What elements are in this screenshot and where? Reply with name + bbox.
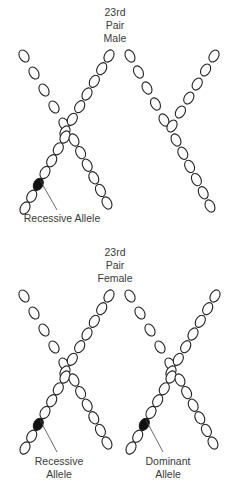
arm-bead [199,423,213,439]
arm-bead [133,305,147,321]
arm-bead [93,183,107,199]
female-x-chromosome-2 [123,288,222,456]
female-dominant-pointer [146,420,163,452]
arm-bead [207,48,221,64]
arm-bead [193,313,207,329]
arm-bead [17,48,31,64]
arm-bead [47,339,61,355]
arm-bead [123,48,137,64]
female-x-chromosome-1 [17,288,116,456]
arm-bead [102,48,116,64]
male-title-line-1: 23rd [104,6,125,18]
arm-bead [182,90,196,106]
arm-bead [140,80,154,96]
arm-bead [37,322,51,338]
arm-bead [47,99,61,115]
arm-bead [87,170,101,186]
male-x-chromosome [17,48,116,216]
arm-bead [179,339,193,355]
arm-bead [190,76,204,92]
male-title-line-2: Pair [106,19,125,31]
male-recessive-pointer [40,180,57,210]
male-recessive-allele-label: Recessive Allele [24,212,101,224]
arm-bead [176,145,190,161]
arm-bead [73,99,87,115]
arm-bead [80,157,94,173]
female-title-line-3: Female [97,272,132,284]
arm-bead [37,82,51,98]
arm-bead [80,326,94,342]
arm-bead [87,410,101,426]
arm-bead [148,96,162,112]
arm-bead [73,339,87,355]
arm-bead [131,64,145,80]
arm-bead [100,435,114,451]
arm-bead [180,385,194,401]
arm-bead [123,288,137,304]
arm-bead [93,423,107,439]
arm-bead [17,288,31,304]
arm-bead [189,172,203,188]
female-title-line-1: 23rd [104,246,125,258]
arm-bead [183,159,197,175]
arm-bead [87,73,101,89]
arm-bead [206,435,220,451]
arm-bead [102,288,116,304]
arm-bead [87,313,101,329]
arm-bead [27,65,41,81]
female-dominant-allele-label: Dominant [146,455,191,467]
arm-bead [80,86,94,102]
arm-bead [186,326,200,342]
arm-bead [193,410,207,426]
arm-bead [80,397,94,413]
arm-bead [74,385,88,401]
chromosome-diagram: 23rd Pair Male Recessive Allele 23rd Pai… [0,0,235,492]
arm-bead [27,305,41,321]
arm-bead [198,62,212,78]
arm-bead [74,145,88,161]
female-recessive-pointer [40,420,57,452]
arm-bead [173,104,187,120]
arm-bead [201,301,215,317]
arm-bead [169,132,183,148]
female-recessive-allele-label: Recessive [35,455,84,467]
female-dominant-allele-label-2: Allele [155,468,181,480]
arm-bead [95,301,109,317]
arm-bead [100,195,114,211]
female-title-line-2: Pair [106,259,125,271]
male-title-line-3: Male [104,32,127,44]
arm-bead [143,322,157,338]
arm-bead [153,339,167,355]
arm-bead [208,288,222,304]
arm-bead [186,397,200,413]
female-recessive-allele-label-2: Allele [46,468,72,480]
arm-bead [203,198,217,214]
male-y-chromosome [123,48,221,214]
arm-bead [196,185,210,201]
arm-bead [95,61,109,77]
